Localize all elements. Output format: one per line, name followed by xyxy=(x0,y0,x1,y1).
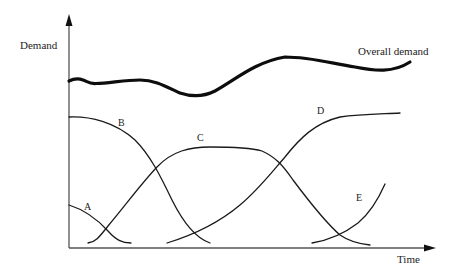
x-axis-label: Time xyxy=(397,253,420,265)
curve-c-label: C xyxy=(197,132,204,143)
curve-e xyxy=(312,184,385,243)
y-axis-arrow-icon xyxy=(66,14,73,26)
curve-c xyxy=(88,147,370,245)
curve-d-label: D xyxy=(317,105,324,116)
overall-demand-curve xyxy=(69,57,410,95)
curve-e-label: E xyxy=(356,192,362,203)
curve-a xyxy=(69,205,131,243)
curve-b-label: B xyxy=(118,117,125,128)
curve-b xyxy=(69,117,210,243)
overall-demand-label: Overall demand xyxy=(358,45,429,57)
demand-diagram: Demand Time Overall demand B A C D E xyxy=(0,0,451,277)
x-axis-arrow-icon xyxy=(424,245,436,252)
curve-a-label: A xyxy=(84,201,92,212)
y-axis-label: Demand xyxy=(20,39,58,51)
